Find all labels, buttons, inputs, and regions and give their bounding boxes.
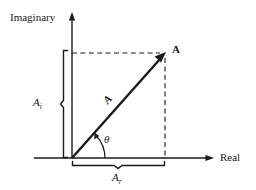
real-component-subscript: r [119,177,122,186]
imaginary-component-brace [61,51,68,158]
phasor-vector [72,52,166,158]
real-component-label: Ar [112,172,122,183]
real-component-brace [73,162,165,169]
imaginary-component-label: Ai [33,97,42,108]
diagram-canvas [0,0,256,190]
real-component-letter: A [112,171,119,183]
real-axis-label: Real [220,152,240,163]
imaginary-component-letter: A [33,96,40,108]
phasor-diagram-figure: Imaginary Real A A θ Ai Ar [0,0,256,190]
real-axis [34,155,214,161]
angle-theta-label: θ [104,134,109,145]
imaginary-component-subscript: i [40,102,42,111]
imaginary-axis [69,12,75,158]
imaginary-axis-label: Imaginary [10,12,55,23]
point-a-label: A [172,44,180,55]
